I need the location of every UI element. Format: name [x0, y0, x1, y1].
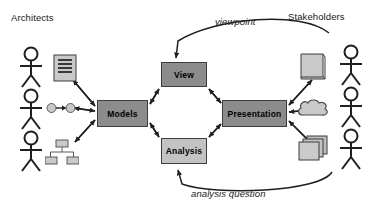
- actor-stakeholder-3[interactable]: [336, 128, 366, 170]
- scroll-icon: [299, 52, 327, 82]
- edge-presentation-view: [209, 89, 221, 103]
- actor-architect-1[interactable]: [16, 46, 46, 88]
- label-architects: Architects: [11, 12, 54, 23]
- label-stakeholders: Stakeholders: [288, 11, 345, 22]
- edge-analysis-presentation: [209, 124, 221, 137]
- cloud-icon: [296, 98, 330, 120]
- graph-icon: [46, 101, 76, 115]
- edge-graph-models: [74, 108, 95, 111]
- edge-analysis-models: [150, 123, 159, 137]
- node-view[interactable]: View: [161, 62, 207, 87]
- tree-icon: [45, 139, 79, 167]
- node-view-label: View: [174, 70, 194, 80]
- edge-label-viewpoint: viewpoint: [215, 16, 256, 27]
- node-analysis[interactable]: Analysis: [161, 138, 207, 164]
- actor-stakeholder-2[interactable]: [336, 86, 366, 128]
- edge-document-models: [73, 80, 95, 106]
- actor-architect-3[interactable]: [16, 130, 46, 172]
- node-analysis-label: Analysis: [166, 146, 203, 156]
- diagram-canvas: Architects Stakeholders viewpoint analys…: [0, 0, 371, 210]
- node-presentation-label: Presentation: [228, 109, 282, 119]
- edge-models-view: [150, 89, 159, 104]
- stack-icon: [298, 135, 330, 163]
- document-icon: [53, 54, 77, 82]
- node-models-label: Models: [107, 109, 137, 119]
- edge-presentation-analysis: [209, 124, 221, 137]
- node-models[interactable]: Models: [97, 100, 148, 127]
- edge-models-document: [73, 80, 95, 106]
- edge-models-analysis: [150, 123, 159, 137]
- actor-stakeholder-1[interactable]: [336, 44, 366, 86]
- node-presentation[interactable]: Presentation: [222, 100, 287, 127]
- edge-models-graph: [74, 108, 95, 111]
- edge-label-analysis-question: analysis question: [191, 188, 266, 199]
- edge-view-models: [150, 89, 159, 104]
- edge-view-presentation: [209, 89, 221, 103]
- actor-architect-2[interactable]: [16, 88, 46, 130]
